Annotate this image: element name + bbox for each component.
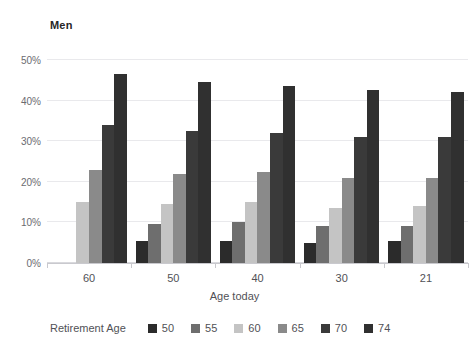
legend-item[interactable]: 74	[364, 322, 390, 334]
x-axis-line	[47, 263, 468, 264]
x-axis-tick	[131, 263, 132, 268]
bar[interactable]	[89, 170, 102, 263]
x-axis-tick-label: 50	[143, 272, 203, 284]
x-axis-title: Age today	[0, 290, 469, 302]
legend-label: 55	[205, 322, 217, 334]
legend-item[interactable]: 55	[191, 322, 217, 334]
x-axis-tick	[300, 263, 301, 268]
bar[interactable]	[304, 243, 317, 263]
bar[interactable]	[186, 131, 199, 263]
y-axis-tick-label: 10%	[1, 217, 41, 228]
y-axis-tick-label: 30%	[1, 136, 41, 147]
y-axis-tick-label: 20%	[1, 176, 41, 187]
legend-label: 50	[162, 322, 174, 334]
x-axis-tick-label: 21	[396, 272, 456, 284]
y-axis-tick-label: 0%	[1, 258, 41, 269]
bar[interactable]	[198, 82, 211, 263]
bar[interactable]	[173, 174, 186, 263]
bar-group	[388, 60, 464, 263]
bar[interactable]	[136, 241, 149, 263]
legend-title: Retirement Age	[50, 322, 126, 334]
legend-item[interactable]: 70	[321, 322, 347, 334]
legend-items: 505560657074	[148, 322, 408, 334]
legend-item[interactable]: 50	[148, 322, 174, 334]
bar[interactable]	[388, 241, 401, 263]
legend-item[interactable]: 60	[234, 322, 260, 334]
plot-area	[47, 60, 468, 263]
legend-swatch	[278, 324, 287, 333]
bar-group	[220, 60, 296, 263]
bar[interactable]	[316, 226, 329, 263]
bar[interactable]	[367, 90, 380, 263]
legend-swatch	[234, 324, 243, 333]
legend-swatch	[148, 324, 157, 333]
bar[interactable]	[438, 137, 451, 263]
chart-legend: Retirement Age 505560657074	[50, 322, 407, 334]
x-axis-tick	[384, 263, 385, 268]
x-axis-tick-label: 60	[59, 272, 119, 284]
legend-label: 70	[335, 322, 347, 334]
x-axis-tick	[47, 263, 48, 268]
legend-label: 65	[292, 322, 304, 334]
x-axis-tick	[215, 263, 216, 268]
x-axis-tick-label: 30	[312, 272, 372, 284]
legend-label: 60	[248, 322, 260, 334]
bar-group	[304, 60, 380, 263]
bar[interactable]	[161, 204, 174, 263]
bar[interactable]	[76, 202, 89, 263]
bar[interactable]	[148, 224, 161, 263]
bar[interactable]	[451, 92, 464, 263]
bar-group	[136, 60, 212, 263]
bar[interactable]	[283, 86, 296, 263]
x-axis-tick-label: 40	[228, 272, 288, 284]
y-axis-tick-label: 40%	[1, 95, 41, 106]
bar[interactable]	[270, 133, 283, 263]
bar[interactable]	[342, 178, 355, 263]
bar[interactable]	[220, 241, 233, 263]
bar[interactable]	[413, 206, 426, 263]
bar[interactable]	[232, 222, 245, 263]
legend-label: 74	[378, 322, 390, 334]
legend-item[interactable]: 65	[278, 322, 304, 334]
legend-swatch	[191, 324, 200, 333]
bar[interactable]	[401, 226, 414, 263]
bar-group	[51, 60, 127, 263]
bar[interactable]	[102, 125, 115, 263]
bar[interactable]	[114, 74, 127, 263]
legend-swatch	[364, 324, 373, 333]
bar[interactable]	[426, 178, 439, 263]
bar[interactable]	[329, 208, 342, 263]
bars-layer	[47, 60, 468, 263]
legend-swatch	[321, 324, 330, 333]
bar[interactable]	[354, 137, 367, 263]
bar[interactable]	[245, 202, 258, 263]
bar[interactable]	[257, 172, 270, 263]
bar-chart: Men 0%10%20%30%40%50% 6050403021 Age tod…	[0, 0, 469, 361]
chart-title: Men	[50, 19, 73, 31]
y-axis-tick-label: 50%	[1, 55, 41, 66]
